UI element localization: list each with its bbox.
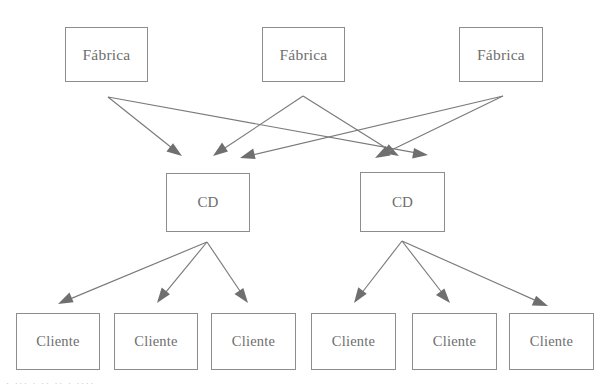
arrowhead-cd2-to-c4 — [354, 287, 367, 303]
arrowhead-f2-to-cd2 — [383, 144, 399, 156]
arrowhead-f2-to-cd1 — [213, 143, 228, 156]
arrowhead-cd1-to-c3 — [234, 288, 248, 303]
customer-node-4-label: Cliente — [332, 333, 375, 350]
edge-line-cd2-to-c4 — [361, 241, 402, 294]
arrowhead-f3-to-cd2 — [375, 146, 390, 158]
factory-node-2: Fábrica — [262, 27, 345, 82]
factory-node-1: Fábrica — [65, 27, 148, 82]
distribution-center-node-2: CD — [360, 172, 445, 232]
arrowhead-f3-to-cd1 — [240, 149, 256, 159]
edge-line-cd1-to-c1 — [69, 242, 207, 299]
distribution-center-node-2-label: CD — [392, 194, 413, 211]
edge-line-f1-to-cd2 — [108, 97, 416, 153]
customer-node-1: Cliente — [16, 313, 100, 370]
customer-node-5: Cliente — [412, 313, 497, 370]
factory-node-3-label: Fábrica — [477, 46, 525, 64]
edge-line-cd2-to-c6 — [402, 241, 537, 301]
arrowhead-cd1-to-c1 — [58, 293, 74, 304]
page-caption-fragment: · ··· · ·· ·· · ···· — [6, 378, 326, 391]
edge-line-cd2-to-c5 — [402, 241, 443, 294]
customer-node-3: Cliente — [211, 313, 296, 370]
edge-line-f2-to-cd1 — [223, 96, 303, 149]
customer-node-3-label: Cliente — [232, 333, 275, 350]
edge-line-cd1-to-c3 — [207, 242, 241, 293]
customer-node-1-label: Cliente — [36, 333, 79, 350]
customer-node-5-label: Cliente — [433, 333, 476, 350]
customer-node-2: Cliente — [114, 313, 198, 370]
arrowhead-f1-to-cd1 — [166, 143, 182, 156]
edge-line-f3-to-cd1 — [252, 96, 503, 155]
factory-node-3: Fábrica — [459, 27, 543, 82]
distribution-center-node-1: CD — [166, 173, 250, 232]
customer-node-6-label: Cliente — [530, 333, 573, 350]
supply-chain-diagram: Fábrica Fábrica Fábrica CD CD Cliente Cl… — [0, 0, 614, 392]
arrowhead-f1-to-cd2 — [412, 148, 428, 158]
customer-node-6: Cliente — [509, 313, 594, 370]
edge-line-cd1-to-c2 — [165, 242, 207, 294]
edge-line-f1-to-cd1 — [108, 97, 173, 149]
distribution-center-node-1-label: CD — [197, 194, 218, 211]
customer-node-4: Cliente — [311, 313, 396, 370]
edge-line-f2-to-cd2 — [303, 96, 389, 150]
customer-node-2-label: Cliente — [134, 333, 177, 350]
arrowhead-cd1-to-c2 — [157, 287, 170, 303]
arrowhead-cd2-to-c5 — [436, 288, 450, 303]
factory-node-1-label: Fábrica — [83, 46, 131, 64]
factory-node-2-label: Fábrica — [280, 46, 328, 64]
arrowhead-cd2-to-c6 — [532, 296, 548, 306]
edge-line-f3-to-cd2 — [386, 96, 503, 153]
